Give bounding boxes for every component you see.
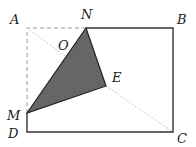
label-C: C — [177, 131, 187, 146]
dotted-diagonal-EC — [106, 86, 173, 132]
label-M: M — [6, 108, 21, 123]
label-D: D — [7, 126, 19, 141]
label-A: A — [9, 12, 19, 27]
label-N: N — [80, 7, 93, 22]
geometry-diagram: A N B O E M D C — [0, 0, 196, 147]
label-B: B — [176, 12, 187, 27]
label-O: O — [58, 38, 69, 53]
label-E: E — [111, 70, 122, 85]
